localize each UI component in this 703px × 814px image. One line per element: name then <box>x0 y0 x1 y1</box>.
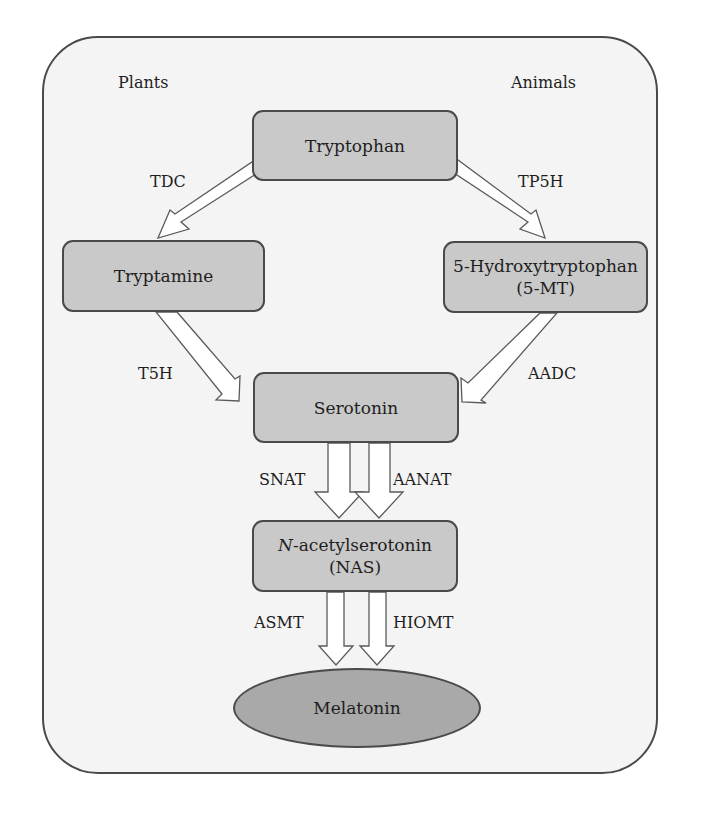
enzyme-label-snat: SNAT <box>259 470 305 489</box>
enzyme-label-hiomt: HIOMT <box>393 613 453 632</box>
node-tryptamine-label: Tryptamine <box>114 265 214 287</box>
enzyme-label-tp5h: TP5H <box>518 172 564 191</box>
arrow-snat <box>315 443 363 518</box>
enzyme-label-aanat: AANAT <box>393 470 451 489</box>
node-5-hydroxytryptophan-line1: 5-Hydroxytryptophan <box>453 255 638 277</box>
arrow-hiomt <box>360 592 394 665</box>
node-nas-line1: N-acetylserotonin <box>278 534 432 556</box>
node-melatonin-label: Melatonin <box>313 698 400 718</box>
arrow-aadc <box>461 313 557 403</box>
arrow-asmt <box>319 592 353 665</box>
node-nas-line2: (NAS) <box>329 556 381 578</box>
node-nas-line1-rest: -acetylserotonin <box>293 535 432 555</box>
group-label-animals: Animals <box>511 73 576 92</box>
node-tryptophan: Tryptophan <box>252 110 458 181</box>
group-label-plants: Plants <box>118 73 168 92</box>
node-tryptamine: Tryptamine <box>62 240 265 312</box>
node-nas-italic-n: N <box>278 535 293 555</box>
node-n-acetylserotonin: N-acetylserotonin (NAS) <box>252 520 458 592</box>
arrow-t5h <box>156 312 240 401</box>
node-melatonin: Melatonin <box>233 668 481 748</box>
node-serotonin-label: Serotonin <box>314 397 398 419</box>
node-tryptophan-label: Tryptophan <box>305 135 405 157</box>
node-5-hydroxytryptophan: 5-Hydroxytryptophan (5-MT) <box>443 241 648 313</box>
enzyme-label-asmt: ASMT <box>254 613 304 632</box>
enzyme-label-aadc: AADC <box>528 364 576 383</box>
node-5-hydroxytryptophan-line2: (5-MT) <box>516 277 575 299</box>
node-serotonin: Serotonin <box>253 372 459 443</box>
enzyme-label-tdc: TDC <box>150 172 186 191</box>
enzyme-label-t5h: T5H <box>138 364 173 383</box>
